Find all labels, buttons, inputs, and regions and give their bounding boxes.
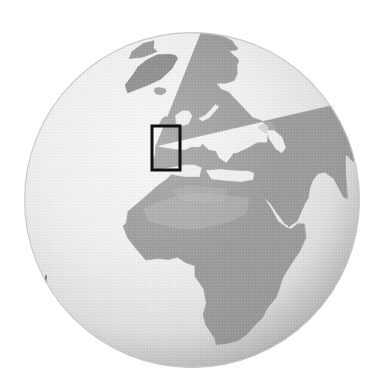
- print-grain-texture: [24, 32, 360, 368]
- globe-map-svg: [0, 0, 386, 389]
- globe-figure: Orthographic globe view of Europe, Afric…: [0, 0, 386, 389]
- globe-body: [24, 32, 360, 368]
